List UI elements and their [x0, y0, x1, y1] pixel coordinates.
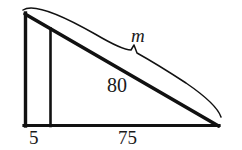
geometry-figure: m 80 5 75: [0, 0, 242, 150]
label-hypotenuse-80: 80: [107, 75, 127, 95]
label-base-segment-5: 5: [29, 128, 39, 147]
label-base-segment-75: 75: [118, 128, 137, 147]
hypotenuse-brace: [23, 8, 221, 117]
label-hypotenuse-m: m: [131, 26, 145, 45]
hypotenuse-line: [25, 14, 219, 126]
